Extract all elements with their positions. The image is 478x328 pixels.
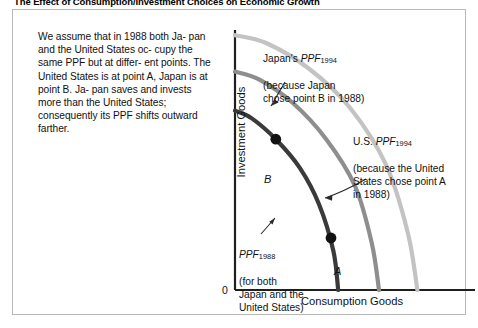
annotation-us-reason: (because the United States chose point A… <box>353 163 446 200</box>
annotation-us-ppf-1994: U.S. PPF1994 (because the United States … <box>353 122 475 201</box>
figure-title: The Effect of Consumption/Investment Cho… <box>14 0 466 7</box>
y-axis-title: Investment Goods <box>235 57 247 207</box>
annotation-us-prefix: U.S. <box>353 136 376 147</box>
caption-line-1: We assume that in 1988 both Ja- <box>38 31 186 42</box>
leader-us-arrowhead <box>325 195 332 201</box>
annotation-japan-ppf-1994: Japan's PPF1994 (because Japan chose poi… <box>263 39 398 105</box>
annotation-japan-prefix: Japan's <box>263 53 301 64</box>
figure-caption: We assume that in 1988 both Ja- pan and … <box>38 30 214 136</box>
data-point-b[interactable] <box>270 134 281 145</box>
annotation-us-ppf: PPF <box>376 136 396 147</box>
annotation-japan-reason: (because Japan chose point B in 1988) <box>263 80 364 104</box>
origin-label: 0 <box>222 284 228 296</box>
annotation-japan-year: 1994 <box>320 56 336 65</box>
ppf-chart: B A Japan's PPF1994 (because Japan chose… <box>213 22 478 322</box>
annotation-ppf1988-year: 1988 <box>259 252 275 261</box>
point-label-b: B <box>264 173 271 185</box>
x-axis-title: Consumption Goods <box>257 295 447 307</box>
annotation-japan-ppf: PPF <box>301 53 321 64</box>
annotation-us-year: 1994 <box>395 139 411 148</box>
annotation-ppf1988-ppf: PPF <box>239 249 259 260</box>
figure-frame: We assume that in 1988 both Ja- pan and … <box>12 9 466 315</box>
